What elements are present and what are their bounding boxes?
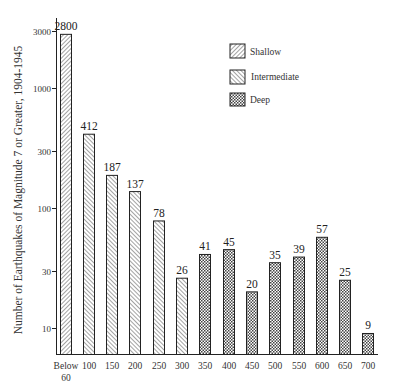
- x-tick-label: 60: [61, 373, 71, 383]
- y-tick-label: 30: [42, 267, 52, 277]
- x-tick-label: 100: [82, 361, 97, 371]
- legend: Shallow Intermediate Deep: [230, 44, 299, 106]
- x-tick-label: 400: [222, 361, 237, 371]
- x-tick-label: 300: [175, 361, 190, 371]
- x-tick-label: 200: [128, 361, 143, 371]
- shallow-swatch-icon: [230, 44, 245, 58]
- x-tick-label: 150: [105, 361, 120, 371]
- legend-label-intermediate: Intermediate: [251, 72, 299, 82]
- axes: [56, 18, 378, 355]
- bar-value-label: 25: [339, 266, 351, 278]
- legend-label-deep: Deep: [250, 95, 270, 105]
- legend-item-deep: Deep: [230, 93, 270, 106]
- bars: 28004121871377826414520353957259: [55, 20, 374, 354]
- bar-intermediate: [84, 134, 95, 354]
- y-tick-label: 3000: [33, 27, 52, 37]
- x-tick-label: 700: [361, 361, 376, 371]
- earthquake-bar-chart: Number of Earthquakes of Magnitude 7 or …: [0, 0, 395, 389]
- x-tick-label: 600: [315, 361, 330, 371]
- bar-shallow: [61, 34, 72, 354]
- bar-value-label: 45: [223, 236, 235, 248]
- legend-item-intermediate: Intermediate: [230, 70, 299, 84]
- bar-intermediate: [154, 221, 165, 355]
- bar-deep: [247, 292, 258, 355]
- bar-value-label: 412: [80, 120, 98, 132]
- x-tick-label: 650: [338, 361, 353, 371]
- bar-value-label: 39: [293, 243, 305, 255]
- bar-deep: [270, 263, 281, 355]
- bar-value-label: 137: [126, 178, 144, 190]
- y-axis-label: Number of Earthquakes of Magnitude 7 or …: [12, 45, 25, 334]
- bar-deep: [317, 237, 328, 354]
- bar-deep: [340, 280, 351, 354]
- x-tick-label: 550: [292, 361, 307, 371]
- bar-deep: [294, 257, 305, 354]
- legend-label-shallow: Shallow: [250, 47, 281, 57]
- x-tick-label: 450: [245, 361, 260, 371]
- y-tick-label: 100: [38, 204, 52, 214]
- bar-intermediate: [177, 278, 188, 354]
- y-tick-label: 10: [42, 324, 52, 334]
- bar-intermediate: [107, 175, 118, 354]
- bar-value-label: 35: [269, 249, 281, 261]
- x-tick-label: 350: [198, 361, 213, 371]
- x-tick-label: 500: [268, 361, 283, 371]
- x-tick-label: Below: [54, 361, 79, 371]
- legend-item-shallow: Shallow: [230, 44, 281, 58]
- bar-value-label: 78: [153, 207, 165, 219]
- y-tick-label: 1000: [33, 84, 52, 94]
- bar-value-label: 20: [246, 278, 258, 290]
- deep-swatch-icon: [230, 93, 245, 106]
- intermediate-swatch-icon: [230, 70, 245, 84]
- y-ticks: 103010030010003000: [33, 27, 57, 334]
- bar-value-label: 187: [103, 161, 121, 173]
- bar-value-label: 57: [316, 223, 328, 235]
- x-tick-labels: Below60100150200250300350400450500550600…: [54, 361, 376, 383]
- bar-deep: [363, 333, 374, 354]
- bar-deep: [224, 250, 235, 355]
- bar-intermediate: [130, 192, 141, 355]
- bar-value-label: 26: [176, 264, 188, 276]
- bar-value-label: 41: [199, 240, 211, 252]
- y-tick-label: 300: [38, 147, 52, 157]
- x-tick-label: 250: [152, 361, 167, 371]
- bar-deep: [200, 254, 211, 354]
- bar-value-label: 2800: [55, 20, 78, 32]
- bar-value-label: 9: [365, 319, 371, 331]
